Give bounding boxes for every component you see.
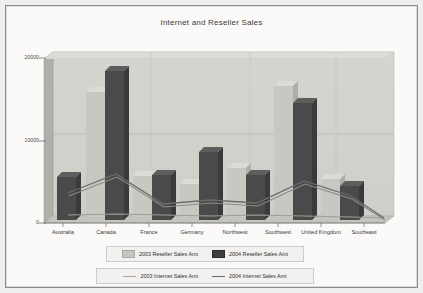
legend-label-2004-reseller: 2004 Reseller Sales Amt [229, 251, 288, 257]
bar-swatch-light-icon [122, 250, 135, 258]
bar-group-southwest [274, 81, 317, 220]
line-swatch-dark-icon [212, 276, 225, 277]
bar-swatch-dark-icon [212, 250, 225, 258]
legend-item-2003-internet[interactable]: 2003 Internet Sales Amt [123, 273, 198, 279]
bar-group-canada [86, 66, 129, 220]
legend-label-2004-internet: 2004 Internet Sales Amt [229, 273, 287, 279]
legend-reseller[interactable]: 2003 Reseller Sales Amt 2004 Reseller Sa… [106, 246, 304, 262]
bar-2004-united-kingdom [340, 181, 364, 220]
bar-2004-canada [105, 66, 129, 220]
x-axis-tick-marks [63, 223, 364, 227]
chart-panel: Internet and Reseller Sales [5, 5, 418, 288]
y-tick-label-10000: 10000 [5, 137, 39, 143]
legend-label-2003-internet: 2003 Internet Sales Amt [140, 273, 198, 279]
legend-label-2003-reseller: 2003 Reseller Sales Amt [139, 251, 198, 257]
bar-2004-germany [199, 147, 223, 220]
legend-item-2004-internet[interactable]: 2004 Internet Sales Amt [212, 273, 287, 279]
bar-group-northwest [227, 163, 270, 220]
bar-group-france [133, 170, 176, 220]
bar-2004-southwest [293, 98, 317, 220]
bar-2004-northwest [246, 170, 270, 220]
legend-item-2004-reseller[interactable]: 2004 Reseller Sales Amt [212, 250, 288, 258]
legend-item-2003-reseller[interactable]: 2003 Reseller Sales Amt [122, 250, 198, 258]
chart-svg [6, 6, 417, 287]
bar-2004-france [152, 170, 176, 220]
line-swatch-light-icon [123, 276, 136, 277]
plot-top-rim [44, 52, 394, 59]
y-tick-label-0: 0 [5, 219, 39, 225]
y-tick-label-20000: 20000 [5, 54, 39, 60]
x-tick-label-southeast: Southeast [334, 229, 394, 235]
legend-internet[interactable]: 2003 Internet Sales Amt 2004 Internet Sa… [96, 268, 314, 284]
plot-area: 20000 10000 0 Australia Canada France Ge… [6, 6, 417, 287]
